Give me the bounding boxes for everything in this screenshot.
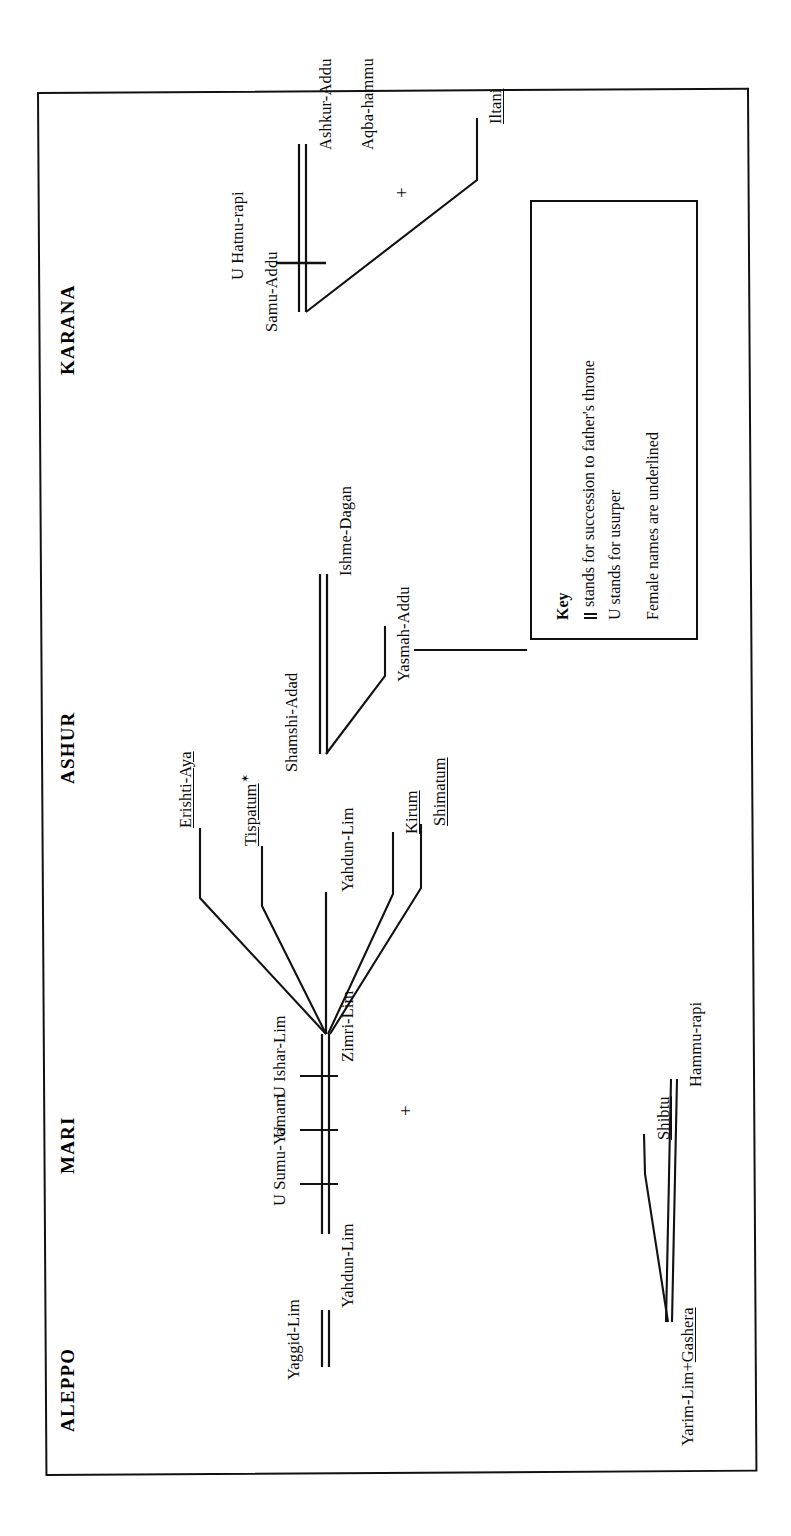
double-bar-icon xyxy=(584,611,596,620)
mari-child-erishti-aya: Erishti-Aya xyxy=(178,751,195,828)
mari-child-kirum: Kirum xyxy=(404,790,421,834)
ashur-shamshi-adad: Shamshi-Adad xyxy=(284,673,301,772)
karana-aqba-hammu: Aqba-hammu xyxy=(360,58,377,150)
mari-usurper-sumu-yamam: U Sumu-Yamam xyxy=(272,1094,289,1206)
mari-child-tispatum: Tispatum✶ xyxy=(240,774,259,846)
mari-child-shimatum: Shimatum xyxy=(432,757,449,826)
karana-marriage-plus: + xyxy=(392,187,411,198)
key-line-succession: stands for succession to father's throne xyxy=(580,360,598,620)
key-legend-box: Key stands for succession to father's th… xyxy=(530,200,698,640)
mari-marriage-plus: + xyxy=(396,1105,415,1116)
ashur-ishme-dagan: Ishme-Dagan xyxy=(338,486,355,576)
ashur-yasmah-addu: Yasmah-Addu xyxy=(396,586,413,682)
diagram-rotated-canvas: ALEPPO MARI ASHUR KARANA xyxy=(40,94,746,1472)
mari-usurper-unnamed: U xyxy=(272,1126,289,1138)
mari-zimri-lim: Zimri-Lim xyxy=(340,991,357,1062)
mari-child-yahdun-lim: Yahdun-Lim xyxy=(340,807,357,892)
karana-samu-addu: Samu-Addu xyxy=(264,251,281,332)
mari-yahdun-lim: Yahdun-Lim xyxy=(340,1223,357,1308)
aleppo-root-wife: Gashera xyxy=(678,1307,697,1362)
page-canvas: ALEPPO MARI ASHUR KARANA xyxy=(0,0,791,1536)
tispatum-marker-icon: ✶ xyxy=(239,774,251,783)
karana-usurper-hatnu-rapi: U Hatnu-rapi xyxy=(230,191,247,280)
key-title: Key xyxy=(554,592,572,620)
key-line-female-names: Female names are underlined xyxy=(644,432,662,620)
mari-yaggid-lim: Yaggid-Lim xyxy=(286,1299,303,1380)
karana-iltani: Iltani xyxy=(488,89,505,124)
aleppo-shibtu: Shibtu xyxy=(656,1096,673,1140)
karana-ashkur-addu: Ashkur-Addu xyxy=(318,58,335,150)
mari-usurper-ishar-lim: U Ishar-Lim xyxy=(272,1015,289,1098)
aleppo-hammu-rapi: Hammu-rapi xyxy=(688,1002,705,1087)
aleppo-root-label: Yarim-Lim+Gashera xyxy=(680,1307,697,1446)
key-line-usurper: U stands for usurper xyxy=(606,490,624,620)
